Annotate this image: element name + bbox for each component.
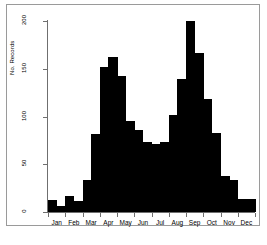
histogram-bar [246,199,255,212]
figure-frame: No. Records 050100150200 JanFebMarAprMay… [6,4,260,226]
histogram-plot: No. Records 050100150200 JanFebMarAprMay… [7,5,261,227]
bar-series [7,5,261,227]
